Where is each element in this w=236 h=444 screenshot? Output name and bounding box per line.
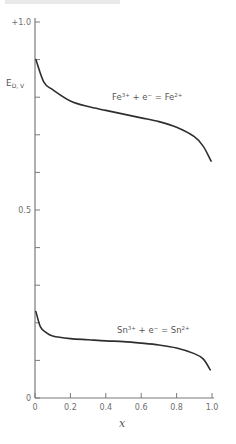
fe-curve xyxy=(36,60,211,162)
x-tick-label: 0.4 xyxy=(99,403,112,412)
chart: +1.00.50 00.20.40.60.81.0 ED, V x Fe3+ +… xyxy=(0,0,236,444)
cropped-caption-residue xyxy=(5,0,120,4)
sn-curve xyxy=(36,312,210,370)
x-axis-title: x xyxy=(119,417,126,430)
y-tick-label: +1.0 xyxy=(12,18,31,27)
x-tick-label: 1.0 xyxy=(206,403,219,412)
sn-reaction-label: Sn3+ + e− = Sn2+ xyxy=(117,325,190,335)
y-axis-title: ED, V xyxy=(6,78,25,89)
curves xyxy=(36,60,211,370)
x-tick-label: 0.6 xyxy=(135,403,148,412)
x-tick-label: 0.2 xyxy=(64,403,77,412)
y-axis-title-sub: D, V xyxy=(12,82,25,89)
y-ticks: +1.00.50 xyxy=(12,18,40,403)
y-tick-label: 0.5 xyxy=(18,206,31,215)
fe-reaction-label: Fe3+ + e− = Fe2+ xyxy=(112,92,183,102)
x-ticks: 00.20.40.60.81.0 xyxy=(32,393,218,412)
x-tick-label: 0.8 xyxy=(170,403,183,412)
y-tick-label: 0 xyxy=(26,394,31,403)
x-tick-label: 0 xyxy=(32,403,37,412)
